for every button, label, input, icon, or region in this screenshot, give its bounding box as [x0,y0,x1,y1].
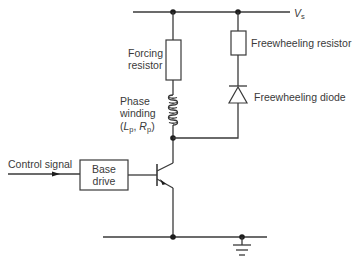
circuit-diagram: Vs Forcing resistor Phase winding (Lp, R… [0,0,358,265]
base-drive-label-2: drive [93,175,116,187]
freewheeling-diode [229,87,247,103]
emitter-node [170,234,176,240]
base-drive-label-1: Base [92,163,116,175]
phase-winding-label-2: winding [119,107,156,119]
supply-label: Vs [294,7,305,21]
freewheeling-resistor-label: Freewheeling resistor [251,37,352,49]
freewheeling-resistor [231,31,246,55]
forcing-resistor-label-1: Forcing [128,47,163,59]
phase-winding-params: (Lp, Rp) [120,120,155,134]
emitter-arrow-icon [160,179,166,185]
ground-icon [233,237,251,255]
phase-winding-coil [169,95,178,125]
forcing-resistor-label-2: resistor [128,59,163,71]
wire [173,103,238,138]
transistor-collector [157,163,173,171]
phase-winding-label-1: Phase [120,95,150,107]
arrow-right-icon [52,172,60,177]
forcing-resistor [166,40,181,80]
freewheeling-diode-label: Freewheeling diode [254,91,346,103]
control-signal-label: Control signal [8,158,72,170]
